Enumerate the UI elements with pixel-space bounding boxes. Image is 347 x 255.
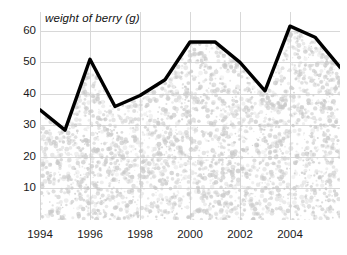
x-axis: 199419961998200020022004	[0, 0, 347, 255]
line-chart: weight of berry (g) 102030405060 1994199…	[0, 0, 347, 255]
x-tick-label-1998: 1998	[116, 228, 164, 240]
x-tick-label-2004: 2004	[266, 228, 314, 240]
x-tick-label-1994: 1994	[16, 228, 64, 240]
x-tick-label-2002: 2002	[216, 228, 264, 240]
x-tick-label-2000: 2000	[166, 228, 214, 240]
x-tick-label-1996: 1996	[66, 228, 114, 240]
